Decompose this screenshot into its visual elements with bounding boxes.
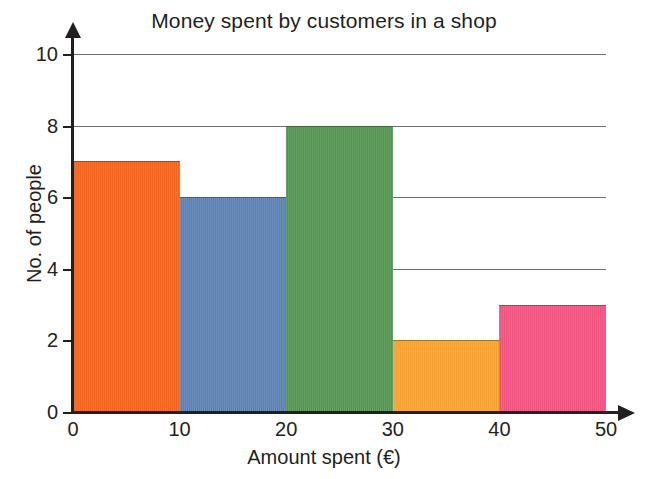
bar-fill: [73, 161, 180, 412]
bar-10–20[interactable]: [180, 54, 287, 412]
bar-40–50[interactable]: [499, 54, 606, 412]
bars-group: [73, 54, 606, 412]
bar-fill: [393, 340, 500, 412]
y-axis-line: [71, 34, 74, 413]
bar-0–10[interactable]: [73, 54, 180, 412]
plot-area: [73, 54, 606, 412]
x-axis-line: [71, 411, 622, 414]
y-tick-10: [63, 54, 72, 56]
y-tick-6: [63, 197, 72, 199]
y-tick-8: [63, 126, 72, 128]
x-tick-label-20: 20: [263, 418, 309, 441]
x-tick-label-0: 0: [50, 418, 96, 441]
x-tick-label-50: 50: [583, 418, 629, 441]
y-tick-label-2: 2: [18, 329, 58, 352]
x-tick-label-10: 10: [157, 418, 203, 441]
x-tick-label-30: 30: [370, 418, 416, 441]
y-tick-label-10: 10: [18, 43, 58, 66]
bar-30–40[interactable]: [393, 54, 500, 412]
y-axis-label: No. of people: [23, 124, 46, 324]
chart-title: Money spent by customers in a shop: [0, 9, 648, 33]
bar-fill: [286, 126, 393, 412]
chart-canvas: Money spent by customers in a shop 02468…: [0, 0, 648, 479]
bar-20–30[interactable]: [286, 54, 393, 412]
x-axis-label: Amount spent (€): [0, 446, 648, 469]
y-axis-arrow-icon: [65, 22, 81, 38]
bar-fill: [180, 197, 287, 412]
y-tick-4: [63, 269, 72, 271]
y-tick-0: [63, 412, 72, 414]
x-tick-label-40: 40: [476, 418, 522, 441]
y-tick-2: [63, 340, 72, 342]
bar-fill: [499, 305, 606, 412]
